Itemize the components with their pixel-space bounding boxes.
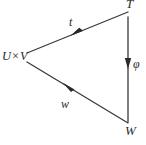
commutative-diagram: U×V T W t w φ xyxy=(0,0,146,145)
node-label-domain: U×V xyxy=(2,50,28,63)
node-label-codomain-top: T xyxy=(126,0,133,10)
edge-label-t: t xyxy=(69,16,72,28)
edge-label-phi: φ xyxy=(133,58,140,70)
edge-label-w: w xyxy=(61,98,69,110)
edge-arrowhead-phi xyxy=(125,58,131,69)
node-label-codomain-bottom: W xyxy=(125,124,136,137)
edge-arrowhead-w xyxy=(63,83,75,93)
edge-line-w xyxy=(27,62,128,123)
